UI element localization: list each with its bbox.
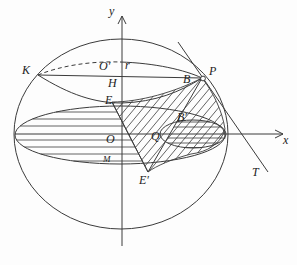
point-label-O-prime: O′ [99,60,110,72]
point-label-K: K [22,64,30,76]
equator-hatching-left [17,112,143,161]
sphere-diagram: y x K O′ r H E B P O Q B′ E′ M T [0,0,297,265]
equator-ellipse [15,106,225,164]
point-label-B: B [183,73,190,85]
point-label-B-prime: B′ [177,111,187,123]
point-label-E-prime: E′ [139,174,149,186]
diagram-canvas [0,0,297,265]
segment-E-Eprime [112,102,148,172]
x-axis-label: x [283,134,288,146]
point-label-P: P [209,65,216,77]
point-P-marker [201,76,206,81]
y-axis [118,16,126,246]
point-label-M: M [103,155,111,164]
diameter-KP [38,75,202,78]
point-label-T: T [252,166,259,178]
point-label-H: H [108,77,117,89]
point-label-Q: Q [151,130,160,142]
point-label-E: E [105,94,112,106]
point-label-O: O [106,133,115,145]
y-axis-label: y [109,5,114,17]
tangent-line-PT [178,42,268,172]
radius-label-r: r [125,59,130,71]
